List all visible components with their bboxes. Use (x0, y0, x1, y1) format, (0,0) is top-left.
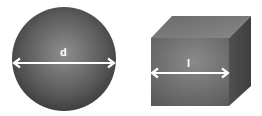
edge-length-label: l (187, 57, 190, 69)
sphere: d (12, 7, 116, 111)
diameter-label: d (60, 46, 67, 58)
cube: l (151, 16, 251, 106)
shapes-diagram: d l (0, 0, 262, 116)
sphere-body (12, 7, 116, 111)
